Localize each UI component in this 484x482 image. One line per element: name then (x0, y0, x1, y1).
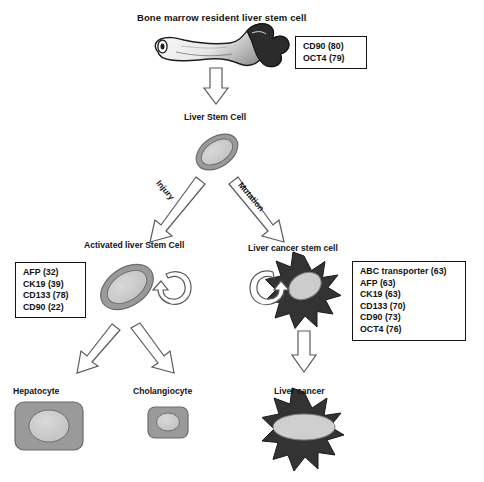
self-renewal-arrow-activated (153, 272, 191, 305)
marker-box-bone-marrow: CD90 (80) OCT4 (79) (295, 36, 367, 69)
marker-item: CD90 (22) (23, 302, 79, 314)
marker-item: CD133 (78) (23, 290, 79, 302)
oval-cell-icon-liver-stem-cell (190, 127, 245, 178)
star-cell-icon-liver-cancer (262, 388, 344, 471)
marker-item: CD90 (80) (303, 41, 360, 53)
oval-cell-icon-activated (92, 255, 161, 319)
figure-caption (0, 470, 484, 482)
rounded-cell-icon-hepatocyte (15, 402, 83, 450)
diagram-graphics (0, 0, 484, 482)
node-label-activated-liver-stem-cell: Activated liver Stem Cell (84, 240, 184, 250)
node-label-cholangiocyte: Cholangiocyte (133, 386, 192, 396)
marker-item: OCT4 (76) (360, 324, 459, 336)
rounded-cell-icon-cholangiocyte (148, 407, 188, 438)
figure-canvas: Bone marrow resident liver stem cell Liv… (0, 0, 484, 482)
node-label-liver-cancer-stem-cell: Liver cancer stem cell (248, 243, 338, 253)
marker-item: AFP (63) (360, 278, 459, 290)
marker-item: OCT4 (79) (303, 53, 360, 65)
marker-item: CK19 (39) (23, 279, 79, 291)
marker-box-cancer-stem: ABC transporter (63) AFP (63) CK19 (63) … (352, 261, 466, 341)
marker-item: CK19 (63) (360, 289, 459, 301)
marker-item: CD90 (73) (360, 312, 459, 324)
arrow-to-liver-cancer (292, 331, 316, 372)
marker-item: AFP (32) (23, 267, 79, 279)
arrow-to-hepatocyte (77, 324, 120, 373)
marker-item: CD133 (70) (360, 301, 459, 313)
marker-box-activated: AFP (32) CK19 (39) CD133 (78) CD90 (22) (15, 262, 86, 318)
page-title: Bone marrow resident liver stem cell (137, 12, 306, 23)
node-label-hepatocyte: Hepatocyte (13, 386, 59, 396)
arrow-to-cholangiocyte (131, 323, 174, 373)
long-bone-icon (155, 24, 289, 67)
node-label-liver-cancer: Liver cancer (274, 386, 325, 396)
marker-item: ABC transporter (63) (360, 266, 459, 278)
arrow-bone-to-stemcell (204, 68, 228, 104)
node-label-liver-stem-cell: Liver Stem Cell (184, 112, 246, 122)
